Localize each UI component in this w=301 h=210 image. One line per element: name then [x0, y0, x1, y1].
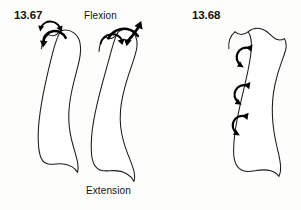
extension-label: Extension [86, 186, 131, 196]
figure-number-right: 13.68 [192, 10, 220, 22]
bone-right [91, 29, 137, 181]
flexion-label: Flexion [84, 11, 117, 21]
figure-number-left: 13.67 [14, 10, 42, 22]
anatomy-figure-illustration: 13.67 Flexion 13.68 Extension [0, 0, 301, 210]
figure-drawing-canvas [0, 0, 301, 210]
bone-left [38, 30, 80, 172]
